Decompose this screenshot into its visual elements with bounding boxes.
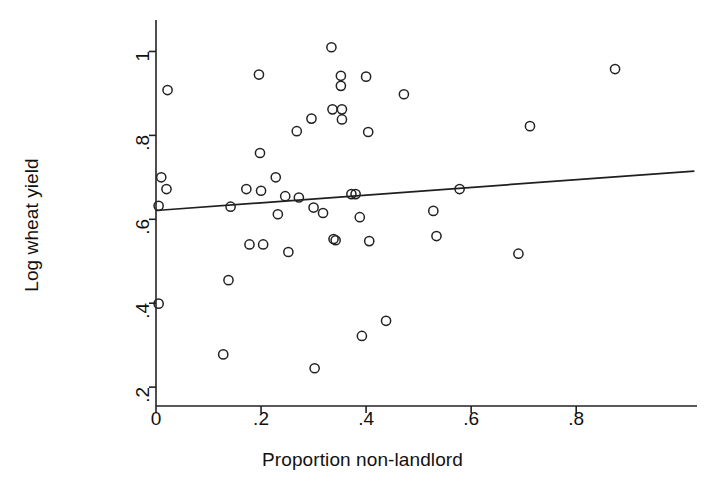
x-tick-label: .8	[568, 408, 584, 430]
data-point	[292, 127, 301, 136]
data-point	[284, 247, 293, 256]
data-point	[256, 186, 265, 195]
data-point	[254, 70, 263, 79]
data-point	[245, 240, 254, 249]
data-point	[364, 127, 373, 136]
regression-line	[156, 171, 694, 210]
data-point	[162, 184, 171, 193]
data-point	[365, 237, 374, 246]
x-tick-label: .6	[463, 408, 479, 430]
y-tick-label: .4	[132, 303, 154, 319]
data-point	[259, 240, 268, 249]
data-point	[307, 114, 316, 123]
data-point	[271, 173, 280, 182]
fit-line	[156, 171, 694, 210]
data-point	[226, 202, 235, 211]
data-point	[336, 81, 345, 90]
data-point	[357, 331, 366, 340]
data-point	[336, 71, 345, 80]
data-point	[429, 206, 438, 215]
data-point	[310, 364, 319, 373]
data-point	[337, 115, 346, 124]
data-points	[154, 43, 620, 373]
data-point	[610, 64, 619, 73]
x-tick-label: .4	[358, 408, 374, 430]
data-point	[327, 43, 336, 52]
data-point	[355, 213, 364, 222]
x-tick-label: .2	[253, 408, 269, 430]
data-point	[219, 350, 228, 359]
data-point	[281, 192, 290, 201]
data-point	[361, 72, 370, 81]
y-tick-label: .6	[132, 219, 154, 235]
y-tick-label: .2	[132, 387, 154, 403]
x-axis-title: Proportion non-landlord	[0, 449, 725, 471]
data-point	[273, 210, 282, 219]
axis-ticks	[149, 51, 576, 413]
data-point	[309, 203, 318, 212]
data-point	[242, 184, 251, 193]
data-point	[255, 148, 264, 157]
x-tick-label: 0	[151, 408, 162, 430]
data-point	[432, 231, 441, 240]
data-point	[157, 173, 166, 182]
data-point	[381, 316, 390, 325]
y-tick-label: .8	[132, 135, 154, 151]
axes	[156, 20, 697, 406]
data-point	[514, 249, 523, 258]
data-point	[525, 122, 534, 131]
data-point	[328, 105, 337, 114]
data-point	[163, 85, 172, 94]
data-point	[337, 105, 346, 114]
data-point	[318, 208, 327, 217]
y-tick-label: 1	[132, 51, 154, 62]
y-axis-title: Log wheat yield	[21, 105, 43, 345]
data-point	[399, 90, 408, 99]
data-point	[224, 276, 233, 285]
scatter-chart: 0.2.4.6.8.2.4.6.81 Proportion non-landlo…	[0, 0, 725, 495]
